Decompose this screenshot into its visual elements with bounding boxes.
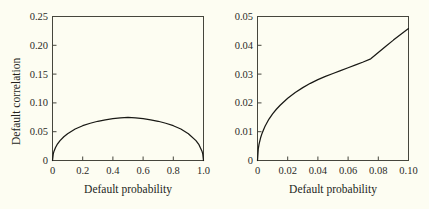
xtick-label-left-5: 1.0: [197, 166, 210, 177]
ytick-label-right-1: 0.01: [213, 127, 253, 138]
data-curve-left: [53, 117, 204, 160]
xtick-label-left-1: 0.2: [76, 166, 89, 177]
ytick-label-right-3: 0.03: [213, 69, 253, 80]
ytick-label-left-5: 0.25: [4, 12, 48, 23]
x-axis-title-right: Default probability: [289, 184, 377, 196]
ytick-label-right-4: 0.04: [213, 41, 253, 52]
xtick-label-right-0: 0: [255, 166, 260, 177]
axis-ticks-left: [53, 17, 204, 161]
xtick-label-right-2: 0.04: [309, 166, 327, 177]
figure-two-panel-default-correlation: 0.25 0.20 0.15 0.10 0.05 0 0 0.2 0.4 0.6…: [0, 0, 429, 209]
xtick-label-right-5: 0.10: [399, 166, 417, 177]
y-axis-title-left: Default correlation: [11, 58, 23, 145]
xtick-label-left-4: 0.8: [167, 166, 180, 177]
chart-panel-right: 0.05 0.04 0.03 0.02 0.01 0 0 0.02 0.04 0…: [215, 0, 429, 209]
ytick-label-right-0: 0: [213, 156, 253, 167]
ytick-label-left-0: 0: [4, 156, 48, 167]
ytick-label-right-2: 0.02: [213, 98, 253, 109]
xtick-label-left-2: 0.4: [106, 166, 119, 177]
xtick-label-left-0: 0: [50, 166, 55, 177]
ytick-label-right-5: 0.05: [213, 12, 253, 23]
xtick-label-left-3: 0.6: [137, 166, 150, 177]
xtick-label-right-1: 0.02: [279, 166, 297, 177]
plot-frame-left: [53, 17, 204, 161]
axis-ticks-right: [258, 17, 409, 161]
xtick-label-right-3: 0.06: [339, 166, 357, 177]
xtick-label-right-4: 0.08: [369, 166, 387, 177]
plot-frame-right: [258, 17, 409, 161]
ytick-label-left-4: 0.20: [4, 41, 48, 52]
x-axis-title-left: Default probability: [84, 184, 172, 196]
chart-panel-left: 0.25 0.20 0.15 0.10 0.05 0 0 0.2 0.4 0.6…: [0, 0, 215, 209]
data-curve-right: [258, 29, 409, 161]
